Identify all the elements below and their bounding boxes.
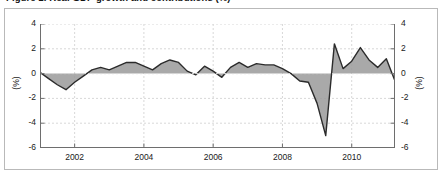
x-tick-2008: 2008 [262, 152, 302, 162]
figure-title: Figure 1. Real GDP growth and contributi… [6, 0, 231, 3]
y-tick-right--2: -2 [401, 92, 419, 102]
series-chart [40, 24, 395, 148]
y-tick-left--4: -4 [18, 117, 36, 127]
figure-title-strip: Figure 1. Real GDP growth and contributi… [0, 0, 442, 7]
x-tick-2004: 2004 [124, 152, 164, 162]
y-tick-right-4: 4 [401, 18, 419, 28]
x-tick-2002: 2002 [55, 152, 95, 162]
y-tick-right--4: -4 [401, 117, 419, 127]
x-tick-2010: 2010 [332, 152, 372, 162]
y-tick-left--2: -2 [18, 92, 36, 102]
y-tick-right-2: 2 [401, 43, 419, 53]
series-line [40, 44, 395, 136]
y-tick-left--6: -6 [18, 142, 36, 152]
area-fill [40, 44, 395, 136]
gridlines-horizontal [40, 24, 395, 148]
y-tick-left-2: 2 [18, 43, 36, 53]
y-tick-left-0: 0 [18, 68, 36, 78]
figure-container: Figure 1. Real GDP growth and contributi… [0, 0, 442, 178]
y-tick-left-4: 4 [18, 18, 36, 28]
y-tick-right--6: -6 [401, 142, 419, 152]
plot-area [40, 24, 395, 148]
y-tick-right-0: 0 [401, 68, 419, 78]
x-tick-2006: 2006 [193, 152, 233, 162]
